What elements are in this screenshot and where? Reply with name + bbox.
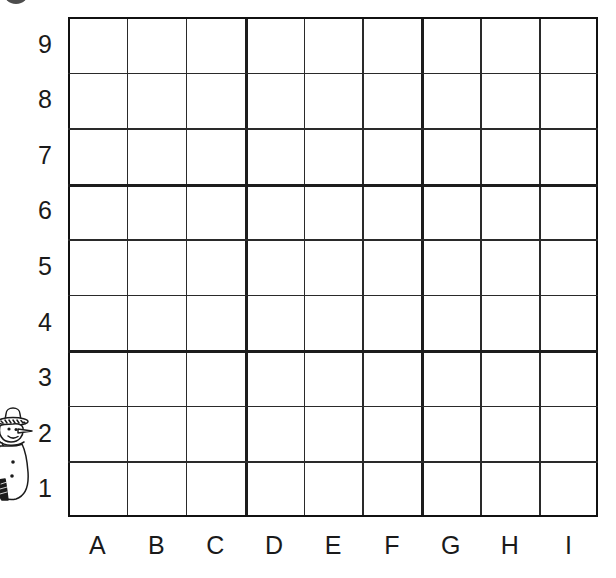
grid-vline-5 — [362, 17, 364, 517]
column-label-F: F — [362, 533, 421, 558]
cropped-circle-mark — [3, 0, 29, 4]
row-label-5: 5 — [30, 254, 60, 279]
grid-vline-4 — [304, 17, 306, 517]
grid-hline-9 — [68, 515, 598, 517]
grid-hline-5 — [68, 295, 598, 297]
grid-hline-8 — [68, 461, 598, 463]
grid-vline-3 — [245, 17, 248, 517]
column-label-D: D — [245, 533, 304, 558]
grid-hline-2 — [68, 128, 598, 130]
coordinate-grid[interactable] — [68, 17, 598, 517]
row-label-7: 7 — [30, 143, 60, 168]
grid-hline-3 — [68, 184, 598, 187]
grid-hline-0 — [68, 17, 598, 19]
column-label-A: A — [68, 533, 127, 558]
grid-vline-1 — [127, 17, 129, 517]
grid-hline-6 — [68, 350, 598, 353]
grid-vline-2 — [186, 17, 188, 517]
snowman-icon — [0, 400, 38, 502]
row-label-3: 3 — [30, 365, 60, 390]
row-label-8: 8 — [30, 87, 60, 112]
worksheet-page: 987654321 ABCDEFGHI — [0, 0, 616, 578]
row-label-6: 6 — [30, 198, 60, 223]
column-label-H: H — [480, 533, 539, 558]
column-label-E: E — [304, 533, 363, 558]
column-label-G: G — [421, 533, 480, 558]
row-label-9: 9 — [30, 32, 60, 57]
grid-hline-4 — [68, 239, 598, 241]
grid-vline-0 — [68, 17, 70, 517]
column-label-B: B — [127, 533, 186, 558]
grid-vline-7 — [480, 17, 482, 517]
row-label-4: 4 — [30, 310, 60, 335]
grid-vline-6 — [421, 17, 424, 517]
grid-hline-1 — [68, 73, 598, 75]
grid-vline-9 — [596, 17, 598, 517]
grid-vline-8 — [539, 17, 541, 517]
column-label-C: C — [186, 533, 245, 558]
column-label-I: I — [539, 533, 598, 558]
grid-hline-7 — [68, 406, 598, 408]
snowman-illustration — [0, 400, 38, 502]
